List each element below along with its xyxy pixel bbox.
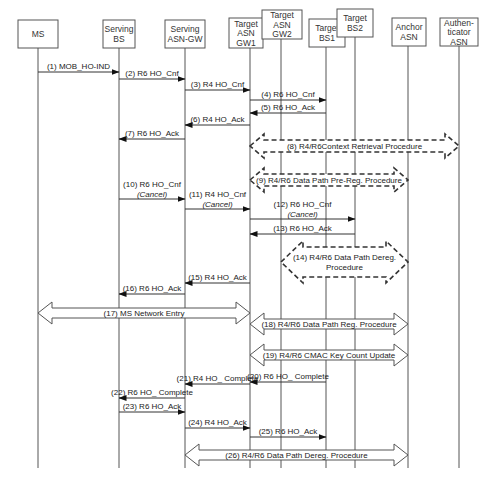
entity-target_asn_gw2: TargetASNGW2 <box>262 10 302 39</box>
procedure-14: (14) R4/R6 Data Path Dereg.Procedure <box>281 241 408 283</box>
message-4: (4) R6 HO_Cnf <box>250 90 326 100</box>
procedure-19: (19) R4/R6 CMAC Key Count Update <box>250 344 408 366</box>
entity-label: Target <box>315 23 339 33</box>
message-3: (3) R4 HO_Cnf <box>185 80 250 90</box>
entity-serving_bs: ServingBS <box>103 20 135 48</box>
message-5: (5) R6 HO_Ack <box>250 103 326 113</box>
message-6: (6) R4 HO_Ack <box>185 115 250 125</box>
message-label: (15) R4 HO_Ack <box>188 273 248 282</box>
procedure-label: (18) R4/R6 Data Path Reg. Procedure <box>261 320 397 329</box>
double-arrow-icon <box>281 241 408 283</box>
entity-label: ASN <box>450 37 467 47</box>
message-25: (25) R6 HO_Ack <box>250 427 326 437</box>
procedure-label: (8) R4/R6Context Retrieval Procedure <box>287 142 423 151</box>
procedures: (8) R4/R6Context Retrieval Procedure(9) … <box>38 134 459 466</box>
message-15: (15) R4 HO_Ack <box>185 273 250 283</box>
message-label: (4) R6 HO_Cnf <box>261 90 315 99</box>
entity-label: Target <box>234 19 258 29</box>
procedure-17: (17) MS Network Entry <box>38 302 250 324</box>
entity-label: BS <box>113 34 125 44</box>
entity-target_asn_gw1: TargetASNGW1 <box>229 18 263 48</box>
procedure-label: (19) R4/R6 CMAC Key Count Update <box>263 351 396 360</box>
message-label: (10) R6 HO_Cnf <box>123 180 182 189</box>
message-label: (13) R6 HO_Ack <box>273 224 333 233</box>
entity-label: ASN <box>273 20 290 30</box>
message-label: (11) R4 HO_Cnf <box>189 190 247 199</box>
procedure-label: (9) R4/R6 Data Path Pre-Reg. Procedure <box>256 176 402 185</box>
message-sublabel: (Cancel) <box>287 210 318 219</box>
entity-label: Target <box>270 10 294 20</box>
entity-label: Anchor <box>396 22 423 32</box>
entity-label: ASN-GW <box>168 34 203 44</box>
message-label: (6) R4 HO_Ack <box>190 115 245 124</box>
entity-label: BS2 <box>347 23 363 33</box>
message-label: (22) R6 HO_ Complete <box>111 388 193 397</box>
message-label: (21) R4 HO_ Complete <box>177 374 259 383</box>
procedure-label-line2: Procedure <box>326 263 363 272</box>
entities: MSServingBSServingASN-GWTargetASNGW1Targ… <box>18 9 478 48</box>
entity-label: Authen- <box>444 18 474 28</box>
entity-label: Serving <box>105 24 134 34</box>
message-label: (2) R6 HO_Cnf <box>125 69 179 78</box>
message-11: (11) R4 HO_Cnf(Cancel) <box>185 190 250 209</box>
message-label: (3) R4 HO_Cnf <box>191 80 245 89</box>
entity-label: Serving <box>171 24 200 34</box>
message-label: (12) R6 HO_Cnf <box>274 200 333 209</box>
entity-label: MS <box>32 29 45 39</box>
message-label: (1) MOB_HO-IND <box>47 62 110 71</box>
message-sublabel: (Cancel) <box>137 190 168 199</box>
entity-label: ASN <box>400 32 417 42</box>
entity-serving_asn_gw: ServingASN-GW <box>165 20 205 48</box>
message-label: (5) R6 HO_Ack <box>261 103 316 112</box>
message-sublabel: (Cancel) <box>202 200 233 209</box>
handover-sequence-diagram: (8) R4/R6Context Retrieval Procedure(9) … <box>0 0 494 488</box>
message-label: (7) R6 HO_Ack <box>125 129 180 138</box>
message-22: (22) R6 HO_ Complete <box>111 388 193 398</box>
procedure-label: (26) R4/R6 Data Path Dereg. Procedure <box>225 451 368 460</box>
message-label: (24) R4 HO_Ack <box>188 418 248 427</box>
entity-label: BS1 <box>319 33 335 43</box>
message-20: (20) R6 HO_ Complete <box>247 372 329 382</box>
procedure-label: (14) R4/R6 Data Path Dereg. <box>293 253 396 262</box>
message-16: (16) R6 HO_Ack <box>119 284 185 294</box>
message-label: (20) R6 HO_ Complete <box>247 372 329 381</box>
entity-anchor_asn: AnchorASN <box>392 18 426 46</box>
entity-label: GW1 <box>236 38 256 48</box>
message-10: (10) R6 HO_Cnf(Cancel) <box>119 180 185 199</box>
procedure-9: (9) R4/R6 Data Path Pre-Reg. Procedure <box>250 168 408 192</box>
message-label: (16) R6 HO_Ack <box>123 284 183 293</box>
entity-label: GW2 <box>272 29 292 39</box>
message-24: (24) R4 HO_Ack <box>185 418 250 428</box>
message-21: (21) R4 HO_ Complete <box>177 374 259 384</box>
message-label: (23) R6 HO_Ack <box>123 402 183 411</box>
entity-label: ticator <box>447 27 470 37</box>
entity-label: ASN <box>237 28 254 38</box>
message-1: (1) MOB_HO-IND <box>38 62 119 72</box>
entity-label: Target <box>343 13 367 23</box>
procedure-18: (18) R4/R6 Data Path Reg. Procedure <box>250 313 408 335</box>
procedure-label: (17) MS Network Entry <box>104 309 185 318</box>
message-7: (7) R6 HO_Ack <box>119 129 185 139</box>
procedure-26: (26) R4/R6 Data Path Dereg. Procedure <box>185 444 408 466</box>
entity-authenticator_asn: Authen-ticatorASN <box>440 18 478 47</box>
message-label: (25) R6 HO_Ack <box>259 427 319 436</box>
message-23: (23) R6 HO_Ack <box>119 402 185 412</box>
message-13: (13) R6 HO_Ack <box>250 224 355 234</box>
message-2: (2) R6 HO_Cnf <box>119 69 185 79</box>
entity-ms: MS <box>18 20 58 48</box>
message-12: (12) R6 HO_Cnf(Cancel) <box>250 200 355 219</box>
entity-target_bs2: TargetBS2 <box>337 9 373 37</box>
